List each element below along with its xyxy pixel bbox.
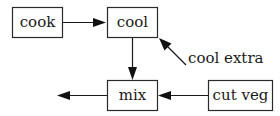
node-cut-veg-label: cut veg — [213, 86, 269, 104]
edge-cool-extra-to-cool — [159, 38, 186, 65]
node-cool-label: cool — [117, 13, 148, 31]
node-cook-label: cook — [20, 13, 56, 31]
edge-cook-to-cool — [63, 18, 106, 27]
flowchart-diagram: cook cool mix cut veg cool extra — [0, 0, 280, 116]
node-cut-veg[interactable]: cut veg — [209, 81, 273, 111]
edge-cut-veg-to-mix — [158, 91, 208, 100]
node-mix[interactable]: mix — [108, 81, 158, 111]
edge-cool-to-mix — [128, 38, 137, 80]
node-cool[interactable]: cool — [108, 8, 158, 38]
arrowhead-right-icon — [93, 18, 106, 27]
arrowhead-left-icon — [158, 91, 171, 100]
edge-mix-to-output — [57, 91, 107, 100]
edge-cool-extra-to-cool-line — [166, 45, 186, 65]
node-mix-label: mix — [119, 86, 147, 104]
arrowhead-down-icon — [128, 67, 137, 80]
node-cook[interactable]: cook — [13, 8, 63, 38]
arrowhead-left-icon — [57, 91, 70, 100]
label-cool-extra: cool extra — [188, 49, 264, 67]
